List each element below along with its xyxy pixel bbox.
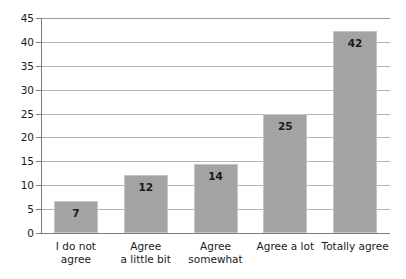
category-label: Totally agree <box>320 240 390 253</box>
y-axis-tick-label: 30 <box>10 85 34 96</box>
y-axis-tick-label: 40 <box>10 37 34 48</box>
bar-value-label: 12 <box>125 182 167 193</box>
x-axis-line <box>41 233 390 234</box>
category-label: Agree somewhat <box>181 240 251 265</box>
bar: 25 <box>263 114 307 233</box>
bar: 12 <box>124 175 168 233</box>
y-axis-tick-label: 25 <box>10 109 34 120</box>
bar: 42 <box>333 31 377 233</box>
y-axis-tick-label: 10 <box>10 180 34 191</box>
bar-value-label: 42 <box>334 38 376 49</box>
y-axis-tick-label: 15 <box>10 156 34 167</box>
category-label: Agree a little bit <box>111 240 181 265</box>
bars-layer: 712142542 <box>41 18 390 233</box>
y-axis-tick-label: 5 <box>10 204 34 215</box>
bar-chart: 051015202530354045 712142542 I do not ag… <box>0 0 406 279</box>
y-axis-tick-label: 45 <box>10 13 34 24</box>
y-axis-tick-label: 0 <box>10 228 34 239</box>
category-label: Agree a lot <box>250 240 320 253</box>
bar: 7 <box>54 201 98 233</box>
bar-value-label: 25 <box>264 121 306 132</box>
bar-value-label: 14 <box>195 171 237 182</box>
category-label: I do not agree <box>41 240 111 265</box>
y-axis-tick-label: 20 <box>10 132 34 143</box>
bar-value-label: 7 <box>55 208 97 219</box>
y-axis-tick-label: 35 <box>10 61 34 72</box>
bar: 14 <box>194 164 238 233</box>
